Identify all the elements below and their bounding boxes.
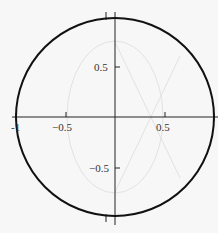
x-label-pos05: 0.5 — [156, 121, 170, 133]
y-label-pos05: 0.5 — [94, 61, 108, 73]
x-label-neg05: −0.5 — [52, 121, 72, 133]
plot-canvas: -1 −0.5 0.5 0.5 −0.5 — [0, 0, 218, 233]
unit-circle-plot: -1 −0.5 0.5 0.5 −0.5 — [0, 0, 218, 233]
x-label-neg1: -1 — [11, 121, 20, 133]
y-label-neg05: −0.5 — [89, 162, 109, 174]
faint-line-1 — [115, 42, 180, 178]
faint-line-2 — [115, 56, 180, 192]
